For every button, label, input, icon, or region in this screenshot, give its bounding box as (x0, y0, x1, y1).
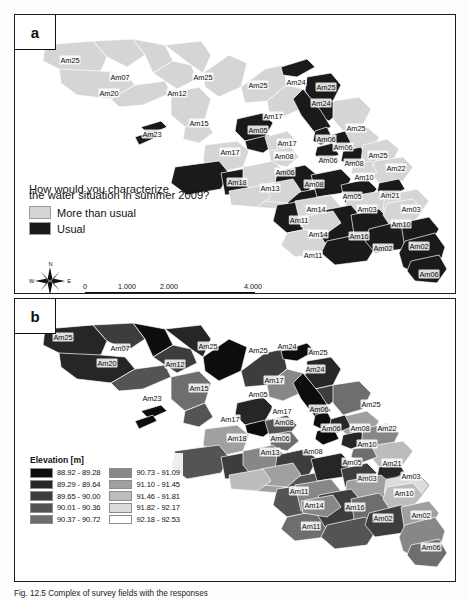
elevation-range-label: 90.01 - 90.36 (57, 503, 100, 512)
legend-swatch-usual (29, 222, 51, 235)
parcel-label: Am11 (289, 216, 309, 225)
parcel-label: Am10 (394, 489, 415, 498)
compass-east-label-a: E (67, 278, 71, 284)
elevation-range-label: 91.10 - 91.45 (136, 480, 179, 489)
parcel-label: Am08 (350, 424, 371, 433)
parcel-label: Am12 (165, 360, 186, 369)
parcel-label: Am06 (421, 543, 442, 552)
parcel-label: Am08 (303, 447, 324, 456)
scale-tick-2-a: 2.000 (160, 282, 178, 291)
parcel-label: Am23 (142, 130, 163, 139)
legend-item-more-than-usual: More than usual (29, 206, 209, 219)
parcel-label: Am10 (354, 173, 375, 182)
parcel-label: Am17 (272, 407, 293, 416)
parcel-label: Am11 (303, 251, 323, 260)
parcel-label: Am15 (189, 384, 210, 393)
parcel-label: Am17 (263, 112, 284, 121)
parcel-label: Am07 (110, 344, 131, 353)
parcel-label: Am13 (260, 184, 281, 193)
parcel-label: Am08 (274, 152, 295, 161)
parcel-label: Am08 (304, 180, 325, 189)
parcel-label: Am25 (248, 81, 269, 90)
scale-bar-a: 0 1.000 2.000 4.000 Meters (85, 282, 261, 294)
parcel-label: Am06 (321, 424, 342, 433)
parcel-label: Am25 (308, 348, 329, 357)
elevation-legend-row: 91.46 - 91.81 (109, 491, 179, 501)
legend-panel-a: How would you characterize the water sit… (29, 183, 209, 235)
legend-swatch-more-than-usual (29, 206, 51, 219)
parcel-label: Am18 (227, 434, 248, 443)
parcel-label: Am06 (333, 143, 354, 152)
parcel-label: Am17 (220, 415, 241, 424)
compass-north-label-a: N (49, 261, 53, 267)
elevation-swatch (30, 515, 53, 525)
parcel-label: Am06 (270, 434, 291, 443)
parcel-label: Am11 (301, 522, 321, 531)
scale-tick-3-a: 4.000 (244, 282, 262, 291)
parcel-label: Am03 (357, 205, 378, 214)
parcel-label: Am20 (99, 89, 120, 98)
elevation-range-label: 88.92 - 89.28 (57, 468, 100, 477)
legend-label-usual: Usual (57, 223, 85, 235)
elevation-swatch (30, 468, 53, 478)
parcel-label: Am06 (318, 156, 339, 165)
parcel-label: Am24 (311, 99, 332, 108)
parcel-label: Am03 (357, 474, 378, 483)
elevation-swatch (30, 480, 53, 490)
parcel-label: Am24 (277, 342, 298, 351)
parcel-label: Am06 (275, 168, 296, 177)
map-parcel (135, 415, 157, 429)
elevation-range-label: 89.29 - 89.64 (57, 480, 100, 489)
elevation-swatch (109, 468, 132, 478)
map-canvas-b: Am25Am07Am20Am12Am25Am15Am23Am25Am24Am25… (15, 299, 455, 581)
elevation-legend-column-2: 90.73 - 91.0991.10 - 91.4591.46 - 91.819… (109, 468, 179, 524)
parcel-label: Am21 (382, 459, 403, 468)
parcel-label: Am15 (189, 119, 210, 128)
legend-label-more-than-usual: More than usual (57, 207, 136, 219)
map-parcel (333, 381, 371, 415)
parcel-label: Am22 (377, 424, 398, 433)
elevation-range-label: 92.18 - 92.53 (136, 515, 179, 524)
parcel-label: Am14 (308, 230, 329, 239)
parcel-label: Am25 (198, 342, 219, 351)
parcel-label: Am02 (411, 511, 432, 520)
figure-caption: Fig. 12.5 Complex of survey fields with … (14, 589, 454, 600)
parcel-label: Am16 (345, 503, 366, 512)
parcel-label: Am24 (305, 365, 326, 374)
elevation-legend-row: 91.10 - 91.45 (109, 480, 179, 490)
elevation-swatch (30, 491, 53, 501)
elevation-swatch (109, 480, 132, 490)
parcel-label: Am13 (260, 448, 281, 457)
legend-panel-b: Elevation [m] 88.92 - 89.2889.29 - 89.64… (27, 453, 183, 526)
parcel-label: Am23 (142, 394, 163, 403)
parcel-label: Am07 (110, 73, 131, 82)
parcel-label: Am08 (274, 418, 295, 427)
elevation-legend-row: 90.37 - 90.72 (30, 515, 100, 525)
legend-item-usual: Usual (29, 222, 209, 235)
parcel-label: Am17 (277, 139, 298, 148)
elevation-range-label: 90.73 - 91.09 (136, 468, 179, 477)
elevation-legend-row: 90.73 - 91.09 (109, 468, 179, 478)
parcel-label: Am25 (60, 56, 81, 65)
parcel-label: Am25 (193, 73, 214, 82)
elevation-range-label: 89.65 - 90.00 (57, 492, 100, 501)
elevation-range-label: 91.46 - 91.81 (136, 492, 179, 501)
parcel-label: Am03 (401, 205, 422, 214)
parcel-label: Am14 (306, 205, 327, 214)
elevation-legend-row: 89.29 - 89.64 (30, 480, 100, 490)
parcel-label: Am25 (248, 346, 269, 355)
parcel-label: Am25 (361, 400, 382, 409)
elevation-legend-row: 90.01 - 90.36 (30, 503, 100, 513)
parcel-label: Am05 (248, 126, 269, 135)
map-tools-a: N S W E 0 1.000 2.000 4.000 Meters (29, 261, 261, 294)
parcel-label: Am16 (349, 232, 370, 241)
elevation-swatch (109, 503, 132, 513)
parcel-label: Am02 (373, 244, 394, 253)
elevation-legend-row: 92.18 - 92.53 (109, 515, 179, 525)
parcel-label: Am20 (97, 359, 118, 368)
elevation-legend-row: 89.65 - 90.00 (30, 491, 100, 501)
figure-page: Am25Am07Am20Am12Am25Am15Am23Am25Am24Am25… (0, 0, 468, 600)
legend-question-line2: the water situation in summer 2009? (29, 189, 209, 203)
parcel-label: Am25 (346, 124, 367, 133)
elevation-swatch (30, 503, 53, 513)
